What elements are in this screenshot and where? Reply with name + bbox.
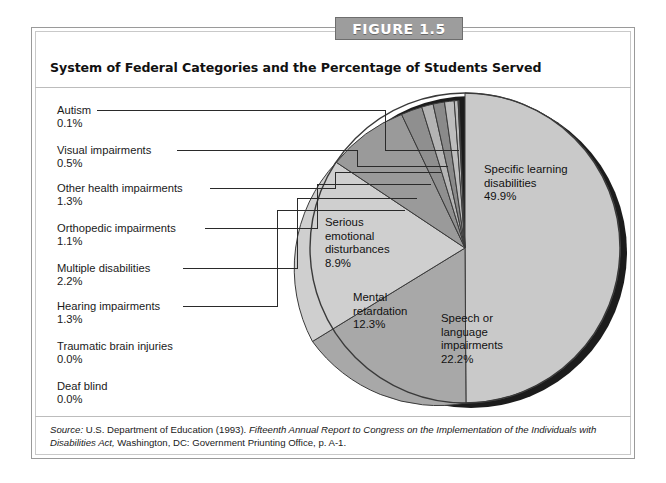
- label-orthopedic-impairments-value: 1.1%: [57, 235, 176, 248]
- label-visual-impairments: Visual impairments 0.5%: [57, 144, 151, 171]
- label-deaf-blind: Deaf blind 0.0%: [57, 380, 107, 407]
- pie-label-specific-learning-disabilities-value: 49.9%: [484, 190, 568, 204]
- pie-label-speech-or-language-impairments-line2: language: [441, 326, 503, 340]
- figure-title-bar: System of Federal Categories and the Per…: [35, 50, 631, 85]
- label-other-health-impairments: Other health impairments 1.3%: [57, 182, 183, 209]
- pie-label-specific-learning-disabilities: Specific learning disabilities 49.9%: [484, 163, 568, 204]
- label-visual-impairments-value: 0.5%: [57, 157, 151, 170]
- source-divider: [35, 416, 631, 417]
- pie-label-serious-emotional-disturbances: Serious emotional disturbances 8.9%: [325, 216, 390, 270]
- pie-label-mental-retardation-line1: Mental: [353, 291, 407, 305]
- label-other-health-impairments-value: 1.3%: [57, 195, 183, 208]
- pie-label-serious-emotional-disturbances-line3: disturbances: [325, 243, 390, 257]
- label-orthopedic-impairments: Orthopedic impairments 1.1%: [57, 222, 176, 249]
- label-other-health-impairments-name: Other health impairments: [57, 182, 183, 195]
- label-orthopedic-impairments-name: Orthopedic impairments: [57, 222, 176, 235]
- label-multiple-disabilities: Multiple disabilities 2.2%: [57, 262, 150, 289]
- label-traumatic-brain-injuries: Traumatic brain injuries 0.0%: [57, 340, 173, 367]
- pie-label-speech-or-language-impairments-line3: impairments: [441, 339, 503, 353]
- label-autism-value: 0.1%: [57, 117, 91, 130]
- label-hearing-impairments-value: 1.3%: [57, 313, 160, 326]
- pie-label-mental-retardation: Mental retardation 12.3%: [353, 291, 407, 332]
- pie-label-mental-retardation-value: 12.3%: [353, 318, 407, 332]
- label-hearing-impairments-name: Hearing impairments: [57, 300, 160, 313]
- label-traumatic-brain-injuries-value: 0.0%: [57, 353, 173, 366]
- source-part2: Washington, DC: Government Priunting Off…: [115, 437, 346, 448]
- pie-label-speech-or-language-impairments: Speech or language impairments 22.2%: [441, 312, 503, 366]
- pie-label-serious-emotional-disturbances-value: 8.9%: [325, 257, 390, 271]
- label-deaf-blind-name: Deaf blind: [57, 380, 107, 393]
- label-autism-name: Autism: [57, 104, 91, 117]
- figure-number-tab: FIGURE 1.5: [335, 17, 463, 40]
- source-part1: U.S. Department of Education (1993).: [83, 424, 249, 435]
- source-label: Source:: [50, 424, 83, 435]
- pie-label-speech-or-language-impairments-line1: Speech or: [441, 312, 503, 326]
- label-deaf-blind-value: 0.0%: [57, 393, 107, 406]
- label-autism: Autism 0.1%: [57, 104, 91, 131]
- label-multiple-disabilities-value: 2.2%: [57, 275, 150, 288]
- label-traumatic-brain-injuries-name: Traumatic brain injuries: [57, 340, 173, 353]
- pie-label-serious-emotional-disturbances-line1: Serious: [325, 216, 390, 230]
- pie-label-specific-learning-disabilities-line1: Specific learning: [484, 163, 568, 177]
- pie-label-mental-retardation-line2: retardation: [353, 305, 407, 319]
- label-hearing-impairments: Hearing impairments 1.3%: [57, 300, 160, 327]
- figure-title: System of Federal Categories and the Per…: [35, 60, 541, 75]
- pie-label-speech-or-language-impairments-value: 22.2%: [441, 353, 503, 367]
- figure-screenshot: FIGURE 1.5 System of Federal Categories …: [0, 0, 666, 483]
- label-visual-impairments-name: Visual impairments: [57, 144, 151, 157]
- source-citation: Source: U.S. Department of Education (19…: [50, 424, 622, 449]
- label-multiple-disabilities-name: Multiple disabilities: [57, 262, 150, 275]
- pie-label-specific-learning-disabilities-line2: disabilities: [484, 177, 568, 191]
- pie-label-serious-emotional-disturbances-line2: emotional: [325, 230, 390, 244]
